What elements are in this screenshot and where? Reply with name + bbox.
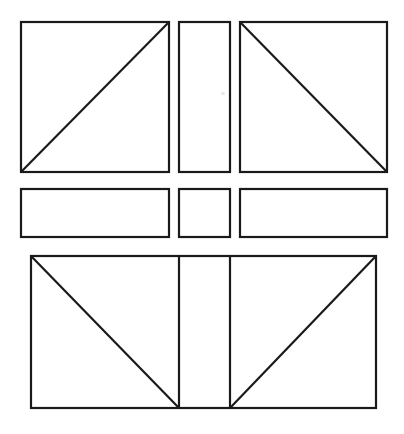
top-right-square[interactable] — [240, 22, 387, 172]
bottom-row — [31, 256, 376, 408]
bottom-outer-rectangle[interactable] — [31, 256, 376, 408]
middle-center-square-outline — [179, 189, 230, 237]
middle-center-square[interactable] — [179, 189, 230, 237]
top-left-square[interactable] — [21, 22, 169, 172]
middle-row — [21, 189, 387, 237]
middle-left-rectangle-outline — [21, 189, 169, 237]
middle-right-rectangle-outline — [240, 189, 387, 237]
top-row — [21, 22, 387, 172]
middle-right-rectangle[interactable] — [240, 189, 387, 237]
figure-canvas: Geometric dissection diagram Line drawin… — [0, 0, 404, 434]
middle-left-rectangle[interactable] — [21, 189, 169, 237]
top-middle-rectangle[interactable] — [179, 22, 230, 172]
scan-speck-icon — [221, 92, 225, 95]
bottom-outer-rectangle-outline — [31, 256, 376, 408]
figure-svg — [0, 0, 404, 434]
top-middle-rectangle-outline — [179, 22, 230, 172]
